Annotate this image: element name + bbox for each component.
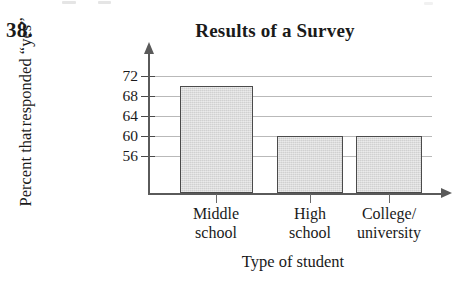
category-line-2: university xyxy=(344,224,434,243)
x-category-label-high-school: High school xyxy=(272,205,348,243)
bar-college-university xyxy=(356,136,422,193)
x-tick-mark-high-school xyxy=(310,194,311,203)
x-category-label-middle-school: Middle school xyxy=(176,205,256,243)
x-tick-mark-middle-school xyxy=(216,194,217,203)
category-line-1: Middle xyxy=(176,205,256,224)
y-axis-line xyxy=(148,52,150,194)
category-line-2: school xyxy=(272,224,348,243)
y-tick-label-68: 68 xyxy=(110,88,138,104)
x-axis-arrow-icon xyxy=(441,188,452,198)
y-tick-label-60: 60 xyxy=(110,128,138,144)
x-axis-line xyxy=(148,193,443,195)
x-axis-title: Type of student xyxy=(148,252,438,272)
y-axis-arrow-icon xyxy=(144,42,154,54)
y-tick-label-64: 64 xyxy=(110,108,138,124)
x-category-label-college-university: College/ university xyxy=(344,205,434,243)
y-tick-label-56: 56 xyxy=(110,148,138,164)
chart-plot-area: 72 68 64 60 56 Middle school High school… xyxy=(0,0,457,283)
bar-middle-school xyxy=(180,86,253,193)
y-tick-label-72: 72 xyxy=(110,68,138,84)
category-line-2: school xyxy=(176,224,256,243)
bar-high-school xyxy=(277,136,343,193)
category-line-1: High xyxy=(272,205,348,224)
x-tick-mark-college-university xyxy=(389,194,390,203)
category-line-1: College/ xyxy=(344,205,434,224)
gridline-72 xyxy=(148,76,432,77)
